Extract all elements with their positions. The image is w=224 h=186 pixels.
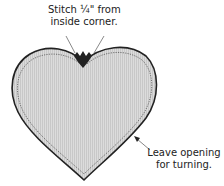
opening-annotation-line2: for turning. xyxy=(146,159,222,171)
stitch-annotation: Stitch ¼" from inside corner. xyxy=(48,4,120,28)
opening-annotation: Leave opening for turning. xyxy=(146,147,222,171)
leader-line-left xyxy=(66,36,75,53)
opening-annotation-line1: Leave opening xyxy=(146,147,222,159)
stitch-annotation-line2: inside corner. xyxy=(48,16,120,28)
heart-fabric xyxy=(12,47,156,180)
stitch-annotation-line1: Stitch ¼" from xyxy=(48,4,120,16)
